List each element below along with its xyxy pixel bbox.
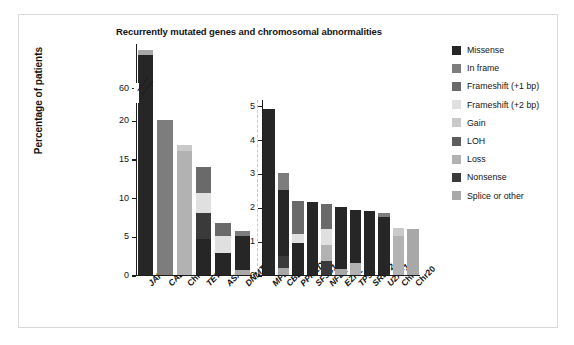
chart-panel-right: 012345MPLCBLPPM1DSF3B1NFE2EZH2TP53SRSF2U… (262, 100, 420, 276)
bar-segment-loss (177, 151, 192, 275)
bar-segment-in-frame (278, 173, 289, 190)
bar-SF3B1 (307, 202, 318, 275)
bar-Chr9 (177, 145, 192, 275)
legend-swatch-icon (452, 191, 461, 200)
legend-swatch-icon (452, 155, 461, 164)
legend-item: Nonsense (452, 168, 539, 186)
y-axis-tick (132, 198, 136, 199)
legend-label: In frame (467, 63, 499, 73)
bar-SRSF2 (364, 211, 375, 275)
y-axis-tick-label: 1 (233, 236, 255, 246)
legend-swatch-icon (452, 64, 461, 73)
bar-segment-missense (307, 202, 318, 275)
bar-segment-frameshift-2-bp (321, 229, 332, 244)
legend-item: Frameshift (+1 bp) (452, 77, 539, 95)
legend-swatch-icon (452, 173, 461, 182)
bar-U2AF1 (378, 213, 389, 275)
y-axis-tick (258, 208, 262, 209)
legend-label: Gain (467, 118, 486, 128)
legend-label: Loss (467, 154, 486, 164)
legend-swatch-icon (452, 46, 461, 55)
chart-title: Recurrently mutated genes and chromosoma… (0, 26, 574, 37)
bar-segment-frameshift-2-bp (196, 193, 211, 213)
legend-item: Loss (452, 150, 539, 168)
y-axis-label: Percentage of patients (33, 11, 44, 191)
bar-TP53 (350, 210, 361, 275)
legend-label: Frameshift (+1 bp) (467, 81, 539, 91)
y-axis-tick-label: 5 (107, 231, 129, 241)
y-axis-tick-label: 20 (107, 115, 129, 125)
y-axis-tick (132, 237, 136, 238)
y-axis-tick-label: 10 (107, 193, 129, 203)
bar-segment-missense (292, 243, 303, 275)
bar-segment-in-frame (157, 120, 172, 275)
bar-segment-nonsense (321, 261, 332, 275)
y-axis-tick (258, 140, 262, 141)
legend-item: In frame (452, 59, 539, 77)
legend-item: Gain (452, 114, 539, 132)
legend-label: LOH (467, 136, 485, 146)
bar-EZH2 (335, 207, 346, 275)
bar-Chr1 (393, 228, 404, 275)
legend-item: Missense (452, 41, 539, 59)
bar-segment-frameshift-2-bp (292, 234, 303, 242)
y-axis-tick (258, 242, 262, 243)
bar-segment-splice-or-other (278, 268, 289, 275)
y-axis-tick (132, 121, 136, 122)
bar-segment-splice-or-other (335, 269, 346, 275)
y-axis-tick-label: 15 (107, 154, 129, 164)
y-axis-tick (258, 174, 262, 175)
bar-segment-missense (196, 239, 211, 275)
bar-segment-loss (321, 245, 332, 262)
legend-swatch-icon (452, 82, 461, 91)
legend-label: Splice or other (467, 191, 524, 201)
legend-label: Nonsense (467, 172, 507, 182)
bar-CBL (278, 173, 289, 275)
bar-segment-missense (364, 211, 375, 275)
bar-MPL (263, 109, 274, 275)
bar-segment-missense (350, 210, 361, 263)
bar-ASXL1 (215, 223, 230, 275)
legend-item: Splice or other (452, 187, 539, 205)
legend-swatch-icon (452, 137, 461, 146)
bar-segment-missense (215, 253, 230, 275)
bar-segment-splice-or-other (407, 229, 418, 275)
bar-NFE2 (321, 204, 332, 275)
legend-swatch-icon (452, 118, 461, 127)
legend-item: LOH (452, 132, 539, 150)
y-axis-tick-label: 5 (233, 101, 255, 111)
bar-segment-frameshift-1-bp (321, 204, 332, 229)
y-axis-tick (132, 159, 136, 160)
legend-swatch-icon (452, 100, 461, 109)
bar-segment-nonsense (196, 213, 211, 239)
y-axis-tick-label: 60 (107, 83, 129, 93)
y-axis-tick (132, 275, 136, 276)
figure-page: Recurrently mutated genes and chromosoma… (0, 0, 574, 345)
y-axis-tick-label: 3 (233, 168, 255, 178)
bar-TET2 (196, 167, 211, 275)
bar-segment-missense (378, 217, 389, 275)
y-axis-tick-label: 0 (233, 270, 255, 280)
y-axis-tick-label: 0 (107, 270, 129, 280)
bar-segment-frameshift-1-bp (196, 167, 211, 193)
bar-segment-gain (393, 228, 404, 236)
bar-segment-frameshift-1-bp (292, 201, 303, 235)
bar-segment-missense (263, 109, 274, 275)
bar-Chr20 (407, 229, 418, 275)
legend-label: Missense (467, 45, 504, 55)
chart-title-text: Recurrently mutated genes and chromosoma… (116, 26, 382, 37)
y-axis-tick (258, 275, 262, 276)
bar-PPM1D (292, 201, 303, 275)
bar-CALR (157, 120, 172, 275)
y-axis-tick-label: 2 (233, 202, 255, 212)
legend-label: Frameshift (+2 bp) (467, 100, 539, 110)
panel-separator (257, 100, 258, 276)
chart-legend: MissenseIn frameFrameshift (+1 bp)Frames… (452, 41, 539, 205)
bar-segment-frameshift-1-bp (215, 223, 230, 236)
bar-segment-nonsense (278, 256, 289, 268)
y-axis-tick (258, 106, 262, 107)
y-axis-tick-label: 4 (233, 135, 255, 145)
axis-break-marker (130, 84, 146, 102)
legend-item: Frameshift (+2 bp) (452, 96, 539, 114)
bar-segment-loss (393, 236, 404, 275)
